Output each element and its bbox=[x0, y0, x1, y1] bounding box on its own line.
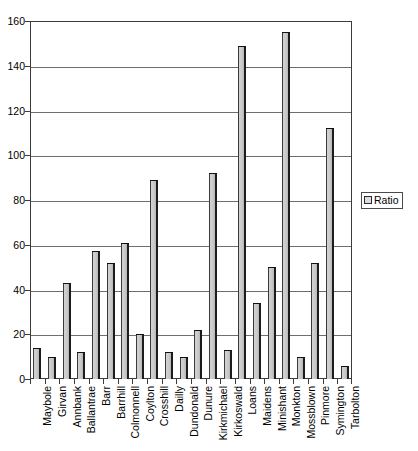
y-axis-tick-label: 40 bbox=[0, 284, 25, 295]
x-axis-label-slot: Dailly bbox=[163, 386, 175, 451]
gridline bbox=[31, 201, 351, 202]
x-axis-label-slot: Barrhill bbox=[105, 386, 117, 451]
y-axis-tick-mark bbox=[25, 334, 30, 335]
x-axis-label-slot: Ballantrae bbox=[75, 386, 87, 451]
y-axis-tick-label: 20 bbox=[0, 329, 25, 340]
x-axis-label-slot: Colmonnell bbox=[119, 386, 131, 451]
y-axis-tick-mark bbox=[25, 379, 30, 380]
gridline bbox=[31, 335, 351, 336]
x-axis-label-slot: Monkton bbox=[280, 386, 292, 451]
gridline bbox=[31, 112, 351, 113]
y-axis-tick-mark bbox=[25, 155, 30, 156]
legend-entry-label: Ratio bbox=[374, 195, 399, 206]
x-axis-label-slot: Coylton bbox=[134, 386, 146, 451]
y-axis-tick-mark bbox=[25, 290, 30, 291]
x-axis-label-slot: Maybole bbox=[31, 386, 43, 451]
y-axis-tick-mark bbox=[25, 66, 30, 67]
x-axis-label-slot: Kirkmichael bbox=[207, 386, 219, 451]
y-axis-tick-mark bbox=[25, 21, 30, 22]
x-axis-label-slot: Crosshill bbox=[148, 386, 160, 451]
square-swatch-icon bbox=[364, 196, 372, 204]
x-axis-label-slot: Dundonald bbox=[178, 386, 190, 451]
y-axis-tick-label: 120 bbox=[0, 105, 25, 116]
y-axis-tick-mark bbox=[25, 200, 30, 201]
gridline bbox=[31, 246, 351, 247]
x-axis-label-slot: Loans bbox=[236, 386, 248, 451]
x-axis-category-label: Tarbolton bbox=[350, 386, 361, 429]
x-axis-label-slot: Mossblown bbox=[295, 386, 307, 451]
chart-legend: Ratio bbox=[361, 192, 403, 209]
gridline bbox=[31, 156, 351, 157]
x-axis-label-slot: Annbank bbox=[61, 386, 73, 451]
x-axis-category-labels: MayboleGirvanAnnbankBallantraeBarrBarrhi… bbox=[30, 384, 352, 451]
y-axis-tick-label: 140 bbox=[0, 61, 25, 72]
x-axis-label-slot: Minishant bbox=[266, 386, 278, 451]
x-axis-label-slot: Dunure bbox=[192, 386, 204, 451]
x-axis-label-slot: Girvan bbox=[46, 386, 58, 451]
y-axis-tick-label: 160 bbox=[0, 16, 25, 27]
gridline bbox=[31, 67, 351, 68]
y-axis-tick-label: 80 bbox=[0, 195, 25, 206]
y-axis-tick-labels: 020406080100120140160 bbox=[0, 0, 25, 451]
x-axis-label-slot: Tarbolton bbox=[339, 386, 351, 451]
x-axis-label-slot: Maidens bbox=[251, 386, 263, 451]
y-axis-tick-label: 100 bbox=[0, 150, 25, 161]
plot-area bbox=[30, 21, 352, 379]
x-axis-label-slot: Symington bbox=[324, 386, 336, 451]
bar-chart: 020406080100120140160 MayboleGirvanAnnba… bbox=[0, 0, 418, 451]
x-axis-label-slot: Pinmore bbox=[309, 386, 321, 451]
y-axis-tick-label: 60 bbox=[0, 240, 25, 251]
y-axis-tick-mark bbox=[25, 245, 30, 246]
gridline bbox=[31, 291, 351, 292]
y-axis-tick-mark bbox=[25, 111, 30, 112]
x-axis-label-slot: Kirkoswald bbox=[222, 386, 234, 451]
x-axis-label-slot: Barr bbox=[90, 386, 102, 451]
y-axis-tick-label: 0 bbox=[0, 374, 25, 385]
